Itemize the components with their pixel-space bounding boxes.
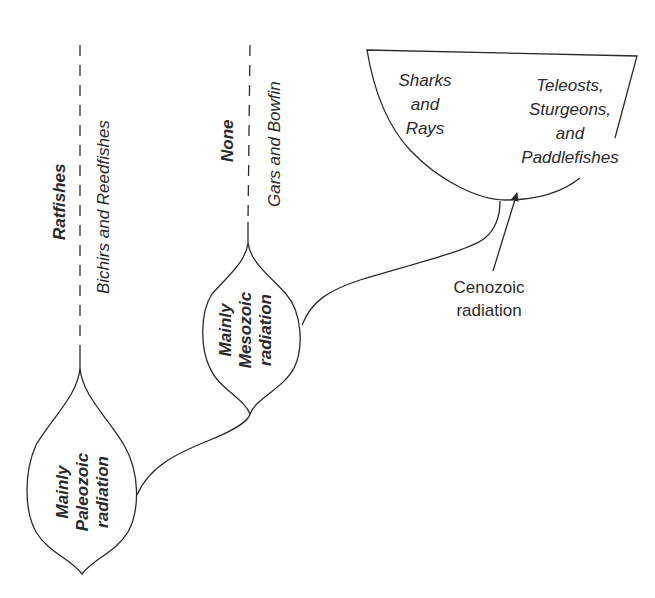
- mesozoic-lineage: Mainly Mesozoic radiation None Gars and …: [203, 45, 300, 414]
- svg-text:Sharks: Sharks: [399, 71, 452, 90]
- paleozoic-living-group-label: Bichirs and Reedfishes: [94, 120, 113, 294]
- svg-text:Sturgeons,: Sturgeons,: [529, 100, 611, 119]
- svg-text:Paddlefishes: Paddlefishes: [521, 148, 619, 167]
- cenozoic-radiation-annotation: Cenozoic radiation: [454, 278, 525, 320]
- svg-text:Rays: Rays: [406, 119, 445, 138]
- svg-text:Mainly: Mainly: [53, 464, 72, 518]
- svg-text:Teleosts,: Teleosts,: [536, 76, 603, 95]
- evolutionary-radiation-diagram: Mainly Paleozoic radiation Ratfishes Bic…: [0, 0, 655, 598]
- paleozoic-lineage: Mainly Paleozoic radiation Ratfishes Bic…: [27, 45, 137, 574]
- svg-text:and: and: [411, 95, 440, 114]
- mesozoic-living-group-label: Gars and Bowfin: [265, 81, 284, 207]
- teleosts-sturgeons-paddlefishes-label: Teleosts, Sturgeons, and Paddlefishes: [521, 76, 619, 167]
- cenozoic-annotation-arrow: [493, 193, 517, 271]
- mesozoic-radiation-label: Mainly Mesozoic radiation: [216, 291, 275, 368]
- svg-text:Mainly: Mainly: [216, 302, 235, 356]
- svg-text:radiation: radiation: [256, 294, 275, 366]
- cenozoic-lineage: Sharks and Rays Teleosts, Sturgeons, and…: [367, 50, 637, 320]
- svg-text:Mesozoic: Mesozoic: [236, 291, 255, 368]
- svg-text:radiation: radiation: [93, 456, 112, 528]
- sharks-and-rays-label: Sharks and Rays: [399, 71, 452, 138]
- svg-text:Paleozoic: Paleozoic: [73, 452, 92, 531]
- mesozoic-extinct-group-label: None: [218, 120, 237, 163]
- paleozoic-extinct-group-label: Ratfishes: [50, 163, 69, 240]
- svg-text:and: and: [556, 124, 585, 143]
- svg-text:radiation: radiation: [456, 301, 521, 320]
- mesozoic-dashed-line: [248, 45, 250, 222]
- svg-text:Cenozoic: Cenozoic: [454, 278, 525, 297]
- paleozoic-to-mesozoic-connector: [137, 413, 250, 495]
- paleozoic-radiation-label: Mainly Paleozoic radiation: [53, 452, 112, 531]
